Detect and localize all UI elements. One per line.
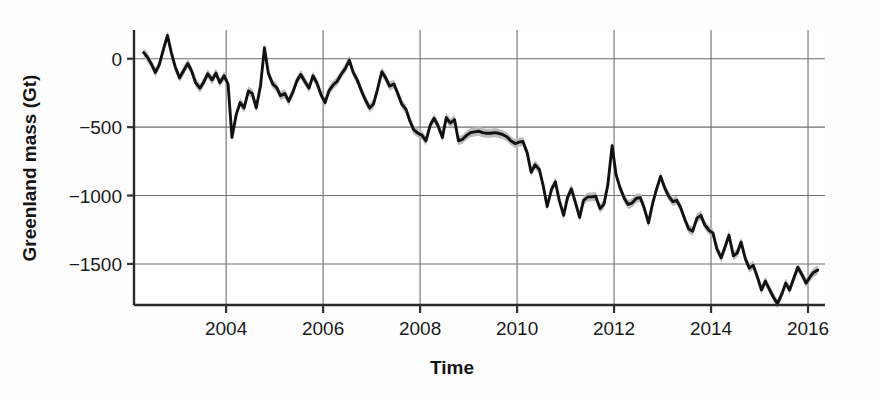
x-tick-label: 2014	[690, 318, 733, 339]
x-tick-label: 2012	[593, 318, 635, 339]
y-tick-label: −1000	[69, 186, 122, 207]
y-tick-label: −1500	[69, 254, 122, 275]
y-axis-ticks: 0−500−1000−1500	[69, 49, 134, 275]
x-tick-label: 2004	[205, 318, 248, 339]
x-tick-label: 2006	[302, 318, 344, 339]
y-axis-title: Greenland mass (Gt)	[19, 75, 40, 262]
y-tick-label: 0	[111, 49, 122, 70]
chart-figure: 0−500−1000−1500 200420062008201020122014…	[0, 0, 880, 399]
y-tick-label: −500	[79, 117, 122, 138]
greenland-mass-line-chart: 0−500−1000−1500 200420062008201020122014…	[0, 0, 880, 399]
x-axis-ticks: 2004200620082010201220142016	[205, 305, 829, 339]
x-axis-title: Time	[430, 357, 474, 378]
x-tick-label: 2016	[787, 318, 829, 339]
x-tick-label: 2008	[399, 318, 441, 339]
x-tick-label: 2010	[496, 318, 538, 339]
